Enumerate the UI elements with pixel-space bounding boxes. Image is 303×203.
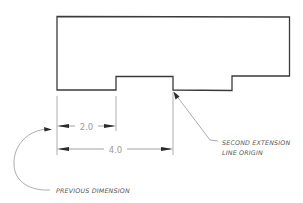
note-second-extension-line2: LINE ORIGIN (222, 149, 263, 156)
dimension-4-0: 4.0 (57, 145, 173, 155)
dimension-label: 2.0 (80, 122, 94, 132)
leader-line (176, 95, 218, 141)
note-second-extension-line1: SECOND EXTENSION (222, 139, 291, 146)
note-previous-dimension: PREVIOUS DIMENSION (56, 187, 130, 194)
arrowhead-left-icon (57, 147, 69, 151)
arrowhead-left-icon (57, 124, 69, 128)
drawing-canvas: 2.0 4.0 SECOND EXTENSION LINE ORIGIN PRE… (0, 0, 303, 203)
arrowhead-right-icon (161, 147, 173, 151)
dimension-2-0: 2.0 (57, 122, 116, 132)
curved-arrowhead-icon (44, 127, 52, 132)
leader-second-extension (174, 92, 219, 142)
curved-arrow-line (14, 129, 50, 190)
arrowhead-right-icon (104, 124, 116, 128)
part-outline (57, 17, 290, 91)
dimension-label: 4.0 (109, 145, 123, 155)
curved-arrow-previous-dimension (14, 127, 52, 190)
